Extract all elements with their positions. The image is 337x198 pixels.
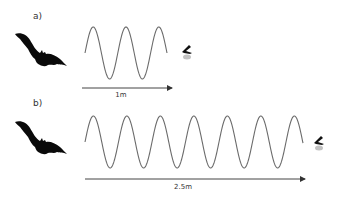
panel-label-b: b) xyxy=(33,98,42,108)
distance-label: 1m xyxy=(115,91,126,99)
panel-a: a) 1m xyxy=(15,11,192,99)
insect-icon xyxy=(314,136,324,151)
bat-icon xyxy=(15,33,67,66)
sound-wave xyxy=(85,116,303,168)
bat-icon xyxy=(15,121,67,154)
echolocation-diagram: a) 1m b) 2.5m xyxy=(0,0,337,198)
distance-label: 2.5m xyxy=(174,183,192,191)
insect-icon xyxy=(182,45,192,60)
panel-b: b) 2.5m xyxy=(15,98,324,191)
sound-wave xyxy=(85,27,167,79)
panel-label-a: a) xyxy=(33,11,42,21)
